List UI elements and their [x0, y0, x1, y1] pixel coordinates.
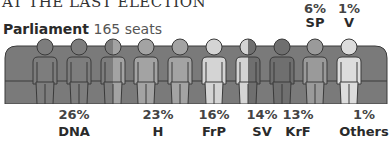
seat-count: 165 seats [93, 21, 161, 37]
parliament-sofa-pictogram [0, 38, 392, 104]
party-label: 1%Others [334, 106, 392, 140]
party-name: DNA [44, 123, 104, 140]
chart-title: Parliament 165 seats [3, 21, 162, 37]
party-percent: 1% [334, 106, 392, 123]
party-name: KrF [268, 123, 328, 140]
party-percent: 1% [319, 2, 379, 16]
party-name: V [319, 16, 379, 30]
title-bold: Parliament [3, 21, 89, 37]
chart-kicker: AT THE LAST ELECTION [2, 0, 206, 11]
party-percent: 23% [128, 106, 188, 123]
party-percent: 26% [44, 106, 104, 123]
party-name: Others [334, 123, 392, 140]
party-label: 23%H [128, 106, 188, 140]
party-label: 26%DNA [44, 106, 104, 140]
party-percent: 13% [268, 106, 328, 123]
party-label: 13%KrF [268, 106, 328, 140]
party-label: 1%V [319, 2, 379, 30]
party-name: H [128, 123, 188, 140]
